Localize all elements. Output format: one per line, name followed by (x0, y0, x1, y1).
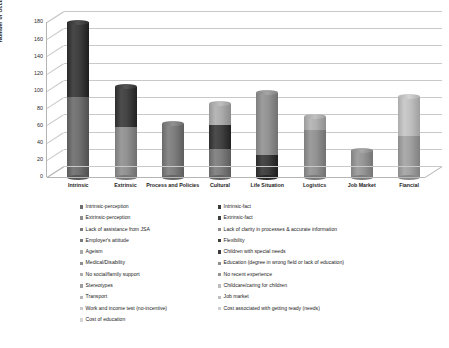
legend-swatch-icon (80, 239, 83, 242)
bar-fiancial[interactable] (398, 97, 420, 177)
legend-item[interactable]: Cost associated with getting ready (need… (218, 305, 344, 316)
bar-process-and-policies[interactable] (162, 124, 184, 177)
legend-label: Stereotypes (86, 282, 113, 290)
legend-label: Transport (86, 293, 108, 301)
legend-swatch-icon (218, 296, 221, 299)
legend-swatch-icon (218, 262, 221, 265)
bar-logistics[interactable] (304, 117, 326, 177)
bar-segment (115, 87, 137, 127)
legend-item[interactable]: No recent experience (218, 271, 344, 282)
legend-label: Childcare/caring for children (224, 282, 287, 290)
legend-item[interactable]: Job market (218, 293, 344, 304)
chart-container: Number of Occurance 02040608010012014016… (0, 0, 449, 205)
legend-item[interactable]: Intrinsic-perception (80, 203, 167, 214)
bar-segment (398, 97, 420, 136)
legend-swatch-icon (80, 205, 83, 208)
legend-item[interactable]: Children with special needs (218, 248, 344, 259)
bar-job-market[interactable] (351, 150, 373, 177)
y-axis-tick-label: 60 (17, 123, 43, 128)
legend-label: Cost of education (86, 316, 126, 324)
legend-item[interactable]: Ageism (80, 248, 167, 259)
chart-legend: Intrinsic-perceptionExtrinsic-perception… (0, 203, 449, 348)
bar-segment (304, 130, 326, 177)
legend-item[interactable]: Lack of clarity in processes & accurate … (218, 226, 344, 237)
legend-item[interactable]: Extrinsic-fact (218, 214, 344, 225)
legend-swatch-icon (80, 250, 83, 253)
bar-segment (209, 125, 231, 148)
gridline (64, 11, 442, 12)
legend-swatch-icon (218, 239, 221, 242)
legend-label: Medical/Disability (86, 259, 125, 267)
legend-label: Flexibility (224, 237, 245, 245)
bar-segment (115, 127, 137, 177)
bar-segment (209, 104, 231, 126)
legend-swatch-icon (218, 205, 221, 208)
legend-item[interactable]: Medical/Disability (80, 259, 167, 270)
legend-swatch-icon (218, 228, 221, 231)
legend-label: Work and income test (no-incentive) (86, 305, 167, 313)
bar-top-cap (351, 148, 373, 153)
legend-swatch-icon (80, 262, 83, 265)
legend-item[interactable]: Cost of education (80, 316, 167, 327)
legend-label: Lack of assistance from JSA (86, 226, 150, 234)
legend-swatch-icon (218, 216, 221, 219)
y-axis-tick-label: 20 (17, 157, 43, 162)
y-axis-tick-label: 140 (17, 54, 43, 59)
legend-label: Intrinsic-perception (86, 203, 129, 211)
legend-label: Extrinsic-perception (86, 214, 131, 222)
legend-item[interactable]: Work and income test (no-incentive) (80, 305, 167, 316)
legend-item[interactable]: Extrinsic-perception (80, 214, 167, 225)
axis-line (47, 177, 425, 178)
bar-intrinsic[interactable] (67, 22, 89, 177)
legend-swatch-icon (218, 273, 221, 276)
y-axis-tick-label: 100 (17, 88, 43, 93)
bar-top-cap (115, 84, 137, 89)
legend-label: Lack of clarity in processes & accurate … (224, 226, 338, 234)
legend-label: Intrinsic-fact (224, 203, 251, 211)
legend-label: Job market (224, 293, 249, 301)
legend-swatch-icon (80, 284, 83, 287)
bar-top-cap (67, 20, 89, 25)
legend-item[interactable]: Transport (80, 293, 167, 304)
legend-swatch-icon (218, 250, 221, 253)
bar-segment (209, 149, 231, 177)
legend-swatch-icon (80, 273, 83, 276)
legend-label: Cost associated with getting ready (need… (224, 305, 320, 313)
bar-segment (351, 150, 373, 177)
legend-item[interactable]: Intrinsic-fact (218, 203, 344, 214)
plot-area (47, 22, 425, 177)
legend-label: Children with special needs (224, 248, 286, 256)
y-axis-label: Number of Occurance (0, 0, 3, 58)
y-axis-tick-label: 180 (17, 19, 43, 24)
y-axis-tick-label: 80 (17, 106, 43, 111)
legend-item[interactable]: Education (degree in wrong field or lack… (218, 259, 344, 270)
axis-line (425, 166, 443, 178)
legend-swatch-icon (218, 307, 221, 310)
legend-item[interactable]: Stereotypes (80, 282, 167, 293)
legend-label: Extrinsic-fact (224, 214, 253, 222)
y-axis-tick-label: 40 (17, 140, 43, 145)
legend-item[interactable]: Childcare/caring for children (218, 282, 344, 293)
legend-item[interactable]: Lack of assistance from JSA (80, 226, 167, 237)
legend-label: Ageism (86, 248, 103, 256)
legend-item[interactable]: Employer's attitude (80, 237, 167, 248)
legend-column-right: Intrinsic-factExtrinsic-factLack of clar… (218, 203, 344, 316)
bar-extrinsic[interactable] (115, 87, 137, 177)
legend-swatch-icon (80, 216, 83, 219)
legend-swatch-icon (80, 318, 83, 321)
bar-segment (162, 124, 184, 177)
y-axis-tick-label: 120 (17, 71, 43, 76)
bar-segment (67, 22, 89, 97)
legend-label: No social/family support (86, 271, 140, 279)
legend-item[interactable]: Flexibility (218, 237, 344, 248)
legend-swatch-icon (218, 284, 221, 287)
legend-swatch-icon (80, 228, 83, 231)
bar-life-situation[interactable] (256, 93, 278, 177)
legend-swatch-icon (80, 307, 83, 310)
legend-label: Education (degree in wrong field or lack… (224, 259, 344, 267)
bar-segment (256, 93, 278, 156)
legend-label: No recent experience (224, 271, 272, 279)
legend-swatch-icon (80, 296, 83, 299)
legend-item[interactable]: No social/family support (80, 271, 167, 282)
bar-segment (67, 97, 89, 177)
